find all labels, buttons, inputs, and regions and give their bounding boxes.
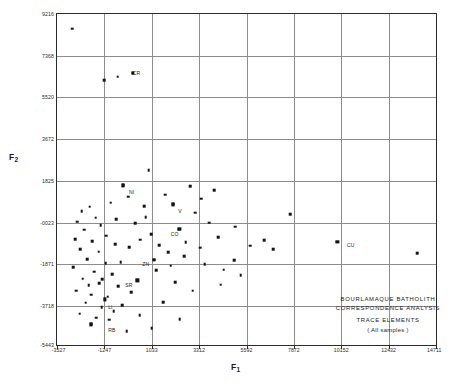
data-point: [162, 301, 165, 304]
gridline-horizontal: [57, 223, 436, 224]
data-point: [138, 314, 141, 317]
data-point: [185, 241, 188, 244]
x-tick-label: 12432: [381, 347, 396, 353]
data-point: [81, 278, 84, 281]
element-label-cu: CU: [347, 242, 355, 248]
data-point: [208, 221, 211, 224]
gridline-horizontal: [57, 56, 436, 57]
element-label-cr: CR: [133, 70, 141, 76]
data-point: [98, 282, 101, 285]
y-tick-label: 1825: [42, 178, 54, 184]
y-tick-label: 3672: [42, 136, 54, 142]
y-tick-label: 7368: [42, 53, 54, 59]
gridline-vertical: [152, 14, 153, 345]
data-point: [130, 291, 133, 294]
data-point: [114, 243, 117, 246]
data-point: [158, 244, 161, 247]
data-point: [127, 195, 130, 198]
data-point: [164, 193, 167, 196]
data-point: [101, 278, 104, 281]
data-point-v: [171, 203, 174, 206]
data-point: [75, 289, 78, 292]
gridline-vertical: [104, 14, 105, 345]
data-point: [169, 264, 172, 267]
data-point: [108, 319, 111, 322]
data-point: [204, 263, 207, 266]
data-point: [213, 189, 216, 192]
data-point: [76, 221, 79, 224]
y-axis-title: F2: [9, 152, 18, 163]
x-tick-label: 7872: [288, 347, 300, 353]
data-point: [71, 28, 74, 31]
data-point: [111, 273, 114, 276]
data-point: [80, 210, 83, 213]
x-tick-label: -1247: [97, 347, 111, 353]
element-label-v: V: [178, 208, 182, 214]
caption-line-3: TRACE ELEMENTS: [313, 316, 449, 325]
data-point: [178, 318, 181, 321]
data-point: [217, 236, 220, 239]
data-point: [289, 213, 292, 216]
x-tick-label: 1033: [146, 347, 158, 353]
data-point-li: [103, 298, 106, 301]
data-point: [88, 284, 91, 287]
data-point: [150, 233, 153, 236]
x-tick-label: -3527: [52, 347, 66, 353]
x-axis-title-sub: 1: [237, 366, 241, 373]
data-point-cu: [336, 240, 339, 243]
data-point: [100, 306, 103, 309]
data-point-zn: [152, 258, 155, 261]
data-point: [416, 252, 419, 255]
element-label-ni: NI: [129, 189, 134, 195]
y-tick-label: -3718: [40, 303, 54, 309]
data-point: [83, 229, 86, 232]
gridline-horizontal: [57, 181, 436, 182]
data-point: [88, 205, 91, 208]
y-tick-label: -0023: [40, 220, 54, 226]
scatter-plot-figure: F2 F1 92167368552036721825-0023-1871-371…: [0, 0, 449, 382]
data-point-sr: [136, 279, 139, 282]
data-point: [117, 285, 120, 288]
data-point: [79, 248, 82, 251]
gridline-vertical: [247, 14, 248, 345]
data-point: [85, 301, 88, 304]
data-point: [191, 289, 194, 292]
data-point: [219, 283, 222, 286]
data-point: [147, 169, 150, 172]
data-point: [72, 266, 75, 269]
data-point: [167, 251, 170, 254]
data-point: [105, 234, 108, 237]
data-point: [143, 205, 146, 208]
data-point: [189, 185, 192, 188]
x-axis-title: F1: [231, 362, 240, 373]
gridline-horizontal: [57, 264, 436, 265]
data-point: [150, 327, 153, 330]
y-tick-label: -1871: [40, 261, 54, 267]
data-point: [97, 250, 100, 253]
data-point: [91, 240, 94, 243]
data-point: [200, 197, 203, 200]
data-point: [125, 330, 128, 333]
caption-line-1: BOURLAMAQUE BATHOLITH: [313, 295, 449, 304]
caption-line-4: ( All samples ): [313, 326, 449, 335]
data-point: [86, 258, 89, 261]
element-label-co: CO: [171, 231, 179, 237]
data-point: [116, 76, 119, 79]
data-point: [199, 246, 202, 249]
x-tick-label: 14711: [427, 347, 442, 353]
data-point: [240, 274, 243, 277]
plot-area: 92167368552036721825-0023-1871-3718-5443…: [56, 13, 437, 346]
x-tick-label: 5592: [241, 347, 253, 353]
data-point: [139, 238, 142, 241]
gridline-vertical: [199, 14, 200, 345]
data-point: [99, 224, 102, 227]
gridline-horizontal: [57, 97, 436, 98]
element-label-li: LI: [108, 304, 112, 310]
data-point: [194, 211, 197, 214]
data-point: [95, 317, 98, 320]
data-point: [94, 217, 97, 220]
data-point: [74, 238, 77, 241]
y-axis-title-sub: 2: [15, 156, 19, 163]
data-point: [233, 259, 236, 262]
data-point: [272, 248, 275, 251]
